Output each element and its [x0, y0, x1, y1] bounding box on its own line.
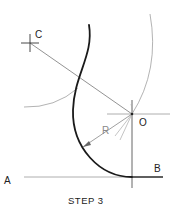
label-o: O [139, 117, 147, 128]
construction-arc-small [24, 88, 78, 107]
construction-arc-large [132, 14, 153, 114]
label-b: B [154, 163, 161, 174]
heavy-tangent-curve [73, 25, 132, 177]
line-c-to-o [30, 43, 132, 114]
label-c: C [35, 29, 42, 40]
construction-diagram: C O A B R STEP 3 [0, 0, 175, 215]
step-caption: STEP 3 [68, 195, 104, 206]
label-a: A [4, 175, 11, 186]
label-r: R [102, 125, 109, 136]
center-point-o [131, 113, 134, 116]
radius-arrowhead [83, 141, 91, 147]
